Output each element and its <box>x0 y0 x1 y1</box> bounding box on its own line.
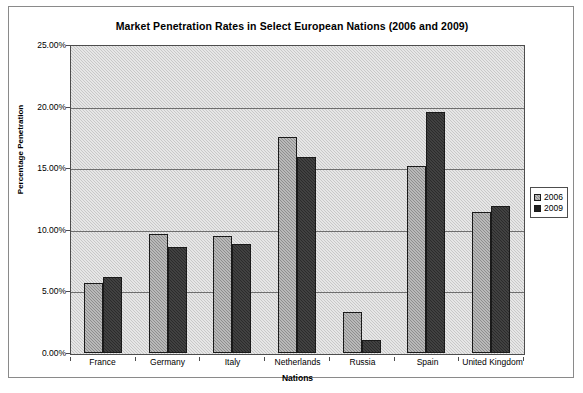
legend-item-2006[interactable]: 2006 <box>534 192 563 202</box>
chart-legend: 20062009 <box>530 187 568 218</box>
x-axis-tick-label: Spain <box>395 357 460 367</box>
bar-spain-2006[interactable] <box>407 166 426 353</box>
y-axis-tick-label: 5.00% <box>12 286 66 296</box>
legend-label-2009: 2009 <box>544 203 563 213</box>
bar-russia-2009[interactable] <box>362 340 381 354</box>
y-axis-tick-label: 15.00% <box>12 163 66 173</box>
bar-group <box>200 46 265 353</box>
chart-title: Market Penetration Rates in Select Europ… <box>9 20 575 32</box>
y-axis-tick-label: 10.00% <box>12 225 66 235</box>
y-axis-tick-labels: 25.00%20.00%15.00%10.00%5.00%0.00% <box>9 45 66 353</box>
y-axis-tick-label: 0.00% <box>12 348 66 358</box>
x-axis-title: Nations <box>70 373 525 383</box>
bar-italy-2009[interactable] <box>232 244 251 353</box>
bar-group <box>265 46 330 353</box>
bar-group <box>394 46 459 353</box>
bar-italy-2006[interactable] <box>213 236 232 353</box>
bar-group <box>458 46 523 353</box>
x-axis-tick-labels: FranceGermanyItalyNetherlandsRussiaSpain… <box>70 357 525 367</box>
x-axis-tick-mark <box>523 357 524 361</box>
bar-united-kingdom-2009[interactable] <box>491 206 510 353</box>
bar-netherlands-2009[interactable] <box>297 157 316 353</box>
legend-item-2009[interactable]: 2009 <box>534 203 563 213</box>
bar-russia-2006[interactable] <box>343 312 362 353</box>
chart-frame: Market Penetration Rates in Select Europ… <box>8 6 574 378</box>
y-axis-tick-label: 20.00% <box>12 102 66 112</box>
x-axis-tick-label: Russia <box>330 357 395 367</box>
x-axis-tick-label: Germany <box>135 357 200 367</box>
y-axis-tick-label: 25.00% <box>12 40 66 50</box>
x-axis-tick-mark <box>264 357 265 361</box>
bar-spain-2009[interactable] <box>426 112 445 353</box>
legend-swatch-2009 <box>534 205 541 212</box>
bar-united-kingdom-2006[interactable] <box>472 212 491 353</box>
x-axis-tick-mark <box>135 357 136 361</box>
bar-france-2006[interactable] <box>84 283 103 353</box>
x-axis-tick-label: France <box>70 357 135 367</box>
x-axis-tick-mark <box>458 357 459 361</box>
x-axis-tick-label: Netherlands <box>265 357 330 367</box>
legend-swatch-2006 <box>534 194 541 201</box>
x-axis-tick-label: United Kingdom <box>460 357 525 367</box>
x-axis-tick-mark <box>329 357 330 361</box>
x-axis-tick-mark <box>70 357 71 361</box>
x-axis-tick-label: Italy <box>200 357 265 367</box>
bar-france-2009[interactable] <box>103 277 122 353</box>
bar-group <box>329 46 394 353</box>
x-axis-tick-mark <box>199 357 200 361</box>
bars-layer <box>71 46 523 353</box>
bar-germany-2006[interactable] <box>149 234 168 353</box>
bar-group <box>136 46 201 353</box>
legend-label-2006: 2006 <box>544 192 563 202</box>
bar-netherlands-2006[interactable] <box>278 137 297 353</box>
bar-group <box>71 46 136 353</box>
x-axis-tick-mark <box>394 357 395 361</box>
bar-germany-2009[interactable] <box>168 247 187 353</box>
